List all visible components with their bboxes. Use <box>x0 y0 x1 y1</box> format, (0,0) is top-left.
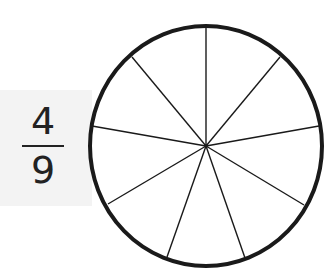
circle-center <box>204 144 208 148</box>
spoke <box>206 146 304 205</box>
spoke <box>167 146 206 257</box>
spoke <box>132 57 206 146</box>
divided-circle <box>0 0 336 274</box>
spoke <box>206 146 245 258</box>
spoke <box>206 126 319 146</box>
spoke <box>206 57 280 146</box>
spoke <box>108 146 206 204</box>
spoke <box>92 126 206 146</box>
